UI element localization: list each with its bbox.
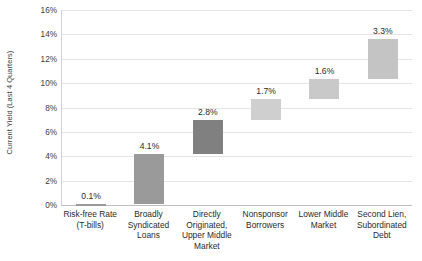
bar-value-label: 0.1% [81,191,101,201]
y-axis-tick: 8% [45,103,57,112]
bar [251,99,281,120]
y-axis-tick: 4% [45,152,57,161]
bar-group: 0.1% [62,10,120,205]
x-axis-category-labels: Risk-free Rate (T-bills)Broadly Syndicat… [61,209,411,261]
bar-group: 3.3% [354,10,412,205]
bar-group: 2.8% [179,10,237,205]
x-axis-category-label: Risk-free Rate (T-bills) [61,209,119,230]
y-axis-tick: 16% [41,6,57,15]
yield-waterfall-chart: Current Yield (Last 4 Quarters) 0%2%4%6%… [0,0,422,261]
bars-layer: 0.1%4.1%2.8%1.7%1.6%3.3% [62,10,412,205]
x-axis-category-label: Directly Originated, Upper Middle Market [178,209,236,251]
bar-group: 4.1% [120,10,178,205]
bar [76,204,106,206]
bar [134,154,164,204]
y-axis-tick: 0% [45,201,57,210]
plot-area: 0.1%4.1%2.8%1.7%1.6%3.3% [61,10,412,206]
bar-value-label: 3.3% [373,26,393,36]
bar [309,79,339,99]
x-axis-category-label: Nonsponsor Borrowers [236,209,294,230]
x-axis-category-label: Second Lien, Subordinated Debt [353,209,411,241]
y-axis-tick: 6% [45,127,57,136]
x-axis-category-label: Broadly Syndicated Loans [119,209,177,241]
bar-value-label: 1.7% [256,86,276,96]
y-axis-tick: 12% [41,54,57,63]
bar-group: 1.6% [295,10,353,205]
bar-value-label: 4.1% [140,141,160,151]
y-axis-title: Current Yield (Last 4 Quarters) [2,0,16,205]
y-axis-tick: 14% [41,30,57,39]
bar-group: 1.7% [237,10,295,205]
y-axis-tick: 2% [45,176,57,185]
bar-value-label: 1.6% [315,66,335,76]
bar [193,120,223,154]
y-axis-tick: 10% [41,79,57,88]
y-axis-tick-labels: 0%2%4%6%8%10%12%14%16% [16,0,60,215]
bar-value-label: 2.8% [198,107,218,117]
bar [368,39,398,79]
x-axis-category-label: Lower Middle Market [294,209,352,230]
